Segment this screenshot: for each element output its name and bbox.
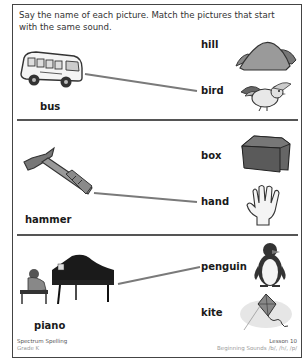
section-divider [17, 119, 298, 121]
word-hand: hand [201, 196, 229, 207]
word-hammer: hammer [25, 214, 71, 225]
grade-label: Grade K [17, 345, 67, 352]
box-icon[interactable] [238, 132, 294, 174]
lesson-label: Lesson 10 [217, 338, 297, 345]
word-hill: hill [201, 39, 218, 50]
hand-icon[interactable] [245, 183, 285, 227]
word-penguin: penguin [201, 261, 247, 272]
footer-right: Lesson 10 Beginning Sounds /b/, /h/, /p/ [217, 338, 297, 352]
bus-icon[interactable] [18, 48, 86, 90]
kite-icon[interactable] [238, 292, 294, 332]
word-bus: bus [40, 101, 60, 112]
instructions: Say the name of each picture. Match the … [19, 9, 295, 33]
hill-icon[interactable] [234, 40, 299, 72]
word-box: box [201, 150, 221, 161]
bird-icon[interactable] [237, 78, 293, 112]
footer-left: Spectrum Spelling Grade K [17, 338, 67, 352]
word-bird: bird [201, 85, 224, 96]
word-kite: kite [201, 307, 223, 318]
hammer-icon[interactable] [20, 144, 98, 196]
book-title: Spectrum Spelling [17, 338, 67, 345]
penguin-icon[interactable] [252, 242, 288, 288]
piano-icon[interactable] [16, 250, 116, 308]
section-divider [17, 234, 298, 236]
lesson-topic: Beginning Sounds /b/, /h/, /p/ [217, 345, 297, 352]
word-piano: piano [34, 320, 65, 331]
